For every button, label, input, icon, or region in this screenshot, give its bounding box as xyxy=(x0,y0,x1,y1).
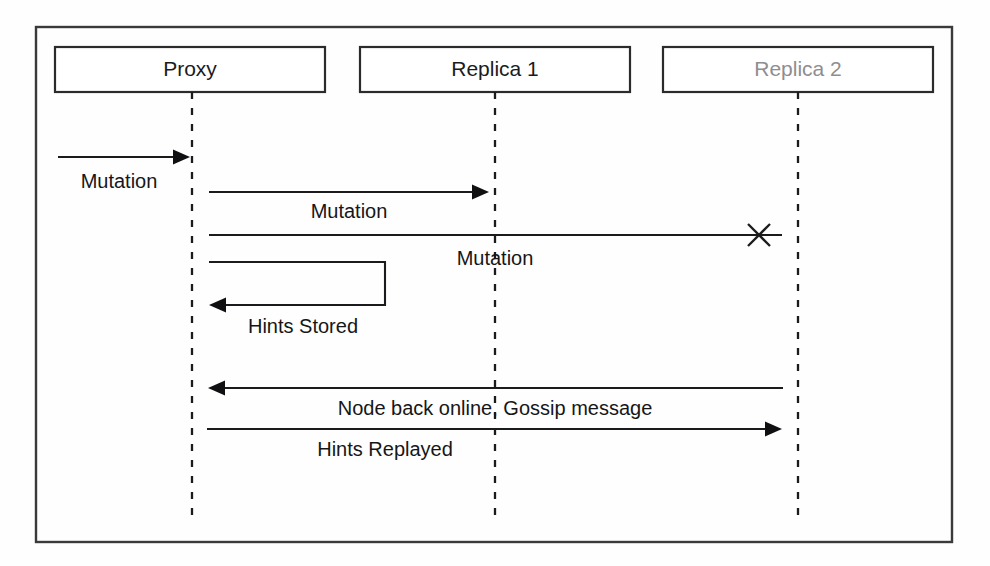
messages-layer xyxy=(58,150,783,437)
actor-replica-2[interactable]: Replica 2 xyxy=(663,47,933,520)
actor-label-replica-1: Replica 1 xyxy=(451,57,539,80)
message-m1[interactable] xyxy=(58,150,190,165)
message-m4[interactable] xyxy=(209,262,385,313)
arrow-head-m6 xyxy=(765,422,782,437)
arrow-head-m2 xyxy=(472,185,489,200)
self-loop-path-m4 xyxy=(209,262,385,305)
actor-label-replica-2: Replica 2 xyxy=(754,57,842,80)
message-label-m1: Mutation xyxy=(81,170,158,192)
actor-proxy[interactable]: Proxy xyxy=(55,47,325,520)
actor-label-proxy: Proxy xyxy=(163,57,217,80)
message-label-m3: Mutation xyxy=(457,247,534,269)
message-label-m2: Mutation xyxy=(311,200,388,222)
message-label-m4: Hints Stored xyxy=(248,315,358,337)
sequence-diagram-svg: ProxyReplica 1Replica 2 MutationMutation… xyxy=(0,0,990,566)
arrow-head-m5 xyxy=(208,381,225,396)
message-label-m6: Hints Replayed xyxy=(317,438,453,460)
arrow-head-m1 xyxy=(173,150,190,165)
arrow-head-m4 xyxy=(209,298,226,313)
message-m2[interactable] xyxy=(209,185,489,200)
message-label-m5: Node back online, Gossip message xyxy=(338,397,653,419)
sequence-diagram-canvas: ProxyReplica 1Replica 2 MutationMutation… xyxy=(0,0,990,566)
labels-layer: MutationMutationMutationHints StoredNode… xyxy=(81,170,653,460)
actors-layer: ProxyReplica 1Replica 2 xyxy=(55,47,933,520)
